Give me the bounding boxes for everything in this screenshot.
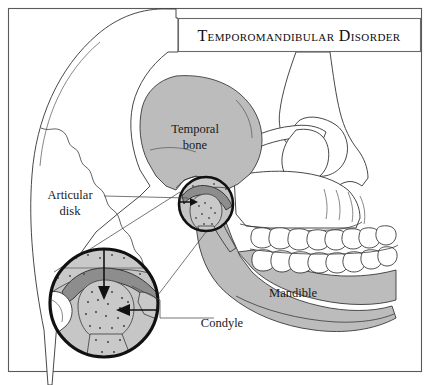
teeth-group: [250, 226, 398, 273]
tooth-lower-8: [378, 247, 397, 266]
mandible-label: Mandible: [269, 286, 317, 300]
illustration-canvas: Temporomandibular Disorder Temporal bone…: [0, 0, 431, 385]
articular-disk-label-line2: disk: [60, 204, 82, 218]
label-mandible: Mandible: [269, 286, 317, 300]
tmj-illustration-figure: Temporomandibular Disorder Temporal bone…: [0, 0, 431, 385]
figure-title: Temporomandibular Disorder: [197, 27, 400, 44]
source-condyle: [190, 194, 222, 230]
maxilla-posterior-line: [360, 196, 365, 224]
tooth-upper-8: [376, 226, 396, 245]
label-condyle: Condyle: [201, 316, 244, 330]
title-box: Temporomandibular Disorder: [179, 19, 421, 52]
condyle-label: Condyle: [201, 316, 244, 330]
temporal-bone-label-line2: bone: [183, 138, 208, 152]
articular-disk-label-line1: Articular: [47, 188, 93, 202]
temporal-bone-label-line1: Temporal: [171, 122, 219, 136]
